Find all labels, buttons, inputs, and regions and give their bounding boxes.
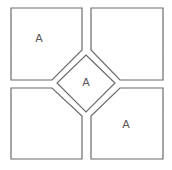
diagram-canvas: A A A [0, 0, 172, 170]
region-top-right [91, 8, 163, 80]
label-bottom-right: A [122, 119, 130, 130]
label-top-left: A [35, 33, 43, 44]
label-center-diamond: A [82, 77, 90, 88]
region-bottom-left [11, 88, 82, 159]
